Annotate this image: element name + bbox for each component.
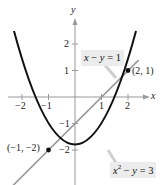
x-tick-label: 1 bbox=[99, 101, 104, 111]
point-2-1 bbox=[126, 68, 131, 73]
x-axis-label: x bbox=[151, 91, 155, 101]
graph-canvas bbox=[0, 0, 163, 185]
equation-label-line: x − y = 1 bbox=[81, 50, 124, 66]
y-tick-label: 2 bbox=[64, 39, 69, 49]
x-tick-label: −1 bbox=[41, 101, 52, 111]
x-axis-arrow-icon bbox=[143, 95, 150, 100]
point-label-neg1-neg2: (−1, −2) bbox=[7, 143, 40, 153]
x-tick-label: −2 bbox=[15, 101, 26, 111]
y-tick-label: 1 bbox=[64, 66, 69, 76]
y-axis-arrow-icon bbox=[73, 18, 78, 25]
y-tick-label: −2 bbox=[59, 145, 70, 155]
leader-line-top bbox=[104, 64, 116, 78]
y-tick-label: −1 bbox=[59, 119, 70, 129]
equation-label-parabola: x2 − y = 3 bbox=[110, 162, 156, 178]
point-label-2-1: (2, 1) bbox=[132, 66, 154, 76]
point-neg1-neg2 bbox=[46, 148, 51, 153]
y-axis-label: y bbox=[71, 5, 75, 15]
x-tick-label: 2 bbox=[125, 101, 130, 111]
